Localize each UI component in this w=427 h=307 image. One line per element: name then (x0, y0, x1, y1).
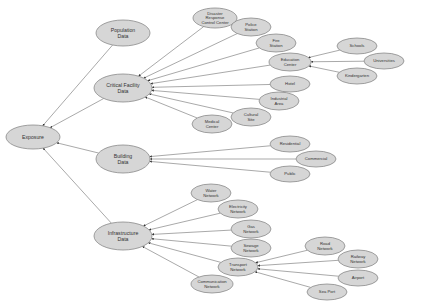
node-railway: RailwayNetwork (338, 250, 378, 268)
node-universities: Universities (364, 53, 404, 69)
node-label: Public (284, 171, 295, 176)
arrow-sewage-to-infrastructure (151, 239, 231, 246)
arrow-schools-to-education (308, 50, 339, 58)
node-label: Network (243, 248, 259, 253)
node-label: Center (206, 124, 219, 129)
arrow-railway-to-transport (258, 260, 338, 265)
node-label: Center (284, 62, 297, 67)
node-seaport: Sea Port (307, 284, 347, 300)
node-label: Area (275, 101, 285, 106)
node-water: WaterNetwork (191, 184, 231, 202)
arrow-residential-to-building (150, 146, 271, 157)
node-transport: TransportNetwork (218, 258, 258, 276)
arrow-seaport-to-transport (255, 272, 311, 288)
node-label: Network (230, 267, 246, 272)
node-label: Network (317, 246, 333, 251)
arrow-kindergarten-to-education (309, 66, 339, 72)
arrow-transport-to-infrastructure (148, 243, 221, 263)
node-label: Data (118, 159, 129, 165)
node-label: Site (247, 117, 255, 122)
node-label: Network (203, 193, 219, 198)
node-schools: Schools (337, 38, 377, 54)
arrow-public-to-building (150, 161, 271, 172)
node-infrastructure: InfrastructureData (94, 222, 152, 250)
arrow-fire-to-critical (148, 48, 259, 81)
node-label: Kindergarten (345, 73, 370, 78)
node-critical: Critical FacilityData (94, 74, 152, 102)
node-label: Sea Port (319, 289, 336, 294)
node-residential: Residential (270, 136, 310, 152)
node-medical: MedicalCenter (192, 115, 232, 133)
node-label: Station (244, 27, 258, 32)
node-commercial: Commercial (296, 151, 336, 167)
node-label: Network (204, 284, 220, 289)
node-label: Exposure (22, 134, 44, 140)
node-disaster: DisasterResponseControl Center (193, 8, 237, 28)
arrow-hotel-to-critical (152, 84, 270, 87)
arrow-communication-to-infrastructure (142, 246, 199, 277)
node-label: Commercial (305, 156, 327, 161)
node-label: Airport (352, 275, 365, 280)
arrow-critical-to-exposure (50, 98, 104, 127)
node-communication: CommunicationNetwork (191, 275, 233, 293)
arrow-electricity-to-infrastructure (149, 213, 220, 230)
node-gas: GasNetwork (231, 220, 271, 238)
arrow-gas-to-infrastructure (152, 230, 231, 234)
node-cultural: CulturalSite (231, 108, 271, 126)
nodes-layer: ExposurePopulationDataCritical FacilityD… (6, 8, 404, 300)
node-police: PoliceStation (231, 18, 271, 36)
node-education: EducationCenter (269, 53, 311, 71)
node-label: Control Center (201, 20, 229, 25)
arrow-airport-to-transport (258, 269, 339, 276)
node-label: Data (118, 33, 129, 39)
node-building: BuildingData (96, 145, 150, 173)
node-exposure: Exposure (6, 125, 60, 149)
exposure-diagram: ExposurePopulationDataCritical FacilityD… (0, 0, 427, 307)
node-label: Station (269, 43, 283, 48)
node-sewage: SewageNetwork (231, 239, 271, 257)
node-airport: Airport (338, 270, 378, 286)
node-label: Data (118, 88, 129, 94)
node-label: Schools (350, 43, 365, 48)
node-public: Public (270, 166, 310, 182)
arrow-universities-to-education (311, 61, 364, 62)
arrow-medical-to-critical (145, 97, 197, 118)
node-label: Residential (280, 141, 301, 146)
arrow-police-to-critical (144, 34, 238, 79)
node-road: RoadNetwork (305, 237, 345, 255)
node-fire: FireStation (256, 34, 296, 52)
node-electricity: ElectricityNetwork (218, 200, 258, 218)
node-label: Hotel (285, 81, 295, 86)
node-label: Network (350, 259, 366, 264)
node-population: PopulationData (96, 20, 150, 46)
arrow-water-to-infrastructure (143, 200, 197, 226)
node-kindergarten: Kindergarten (337, 68, 377, 84)
node-label: Network (243, 229, 259, 234)
node-hotel: Hotel (270, 76, 310, 92)
arrow-building-to-exposure (57, 143, 99, 153)
node-label: Universities (373, 58, 395, 63)
node-label: Network (230, 209, 246, 214)
node-industrial: IndustrialArea (259, 92, 299, 110)
node-label: Data (118, 236, 129, 242)
